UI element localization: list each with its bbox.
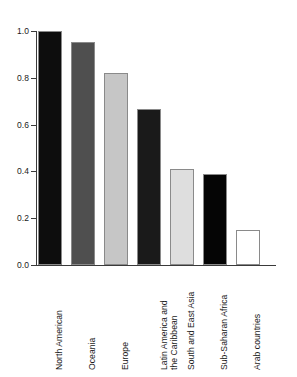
y-axis-line [36,31,37,265]
x-axis-label: Europe [120,272,130,370]
y-axis-tick [31,171,37,172]
bar [203,174,227,265]
bar-chart-figure: 0.00.20.40.60.81.0 North AmericanOceania… [0,0,297,377]
bar [71,42,95,265]
x-axis-line [36,265,276,266]
y-axis-tick-label: 0.6 [0,121,29,130]
y-axis-tick [31,125,37,126]
x-axis-label: South and East Asia [186,272,196,370]
bar [137,109,161,265]
y-axis-tick [31,31,37,32]
y-axis-tick [31,78,37,79]
y-axis-tick [31,265,37,266]
y-axis-tick-label: 0.0 [0,261,29,270]
x-axis-label: Latin America and the Caribbean [159,272,179,370]
x-axis-label: Sub-Saharan Africa [219,272,229,370]
plot-area: 0.00.20.40.60.81.0 North AmericanOceania… [0,0,297,377]
bar [38,31,62,265]
y-axis-tick-label: 0.2 [0,214,29,223]
y-axis-tick [31,218,37,219]
bar [104,73,128,265]
y-axis-tick-label: 0.4 [0,167,29,176]
x-axis-label: Oceania [87,272,97,370]
x-axis-label: Arab countries [252,272,262,370]
y-axis-tick-label: 0.8 [0,74,29,83]
bar [170,169,194,265]
bar [236,230,260,265]
x-axis-label: North American [54,272,64,370]
y-axis-tick-label: 1.0 [0,27,29,36]
